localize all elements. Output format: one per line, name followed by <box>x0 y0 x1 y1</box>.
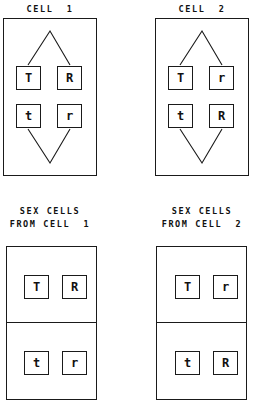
sex-cells-1-upper-right: R <box>62 275 87 299</box>
sex-cells-2-box <box>156 246 247 400</box>
sex-cells-1-title-line-1: SEX CELLS <box>3 206 97 217</box>
cell-2-allele-bottom-right: R <box>209 104 234 128</box>
cell-1-box <box>3 18 97 176</box>
sex-cells-2-title-line-1: SEX CELLS <box>155 206 249 217</box>
sex-cells-1-lower-right: r <box>62 351 87 375</box>
sex-cells-1-divider <box>7 322 96 323</box>
cell-1-allele-top-left: T <box>16 66 41 90</box>
sex-cells-1-box <box>6 246 97 400</box>
sex-cells-2-lower-left: t <box>175 351 200 375</box>
cell-1-allele-top-right: R <box>57 66 82 90</box>
cell-2-box <box>155 18 249 176</box>
cell-2-title: CELL 2 <box>155 4 249 15</box>
cell-2-allele-bottom-left: t <box>168 104 193 128</box>
cell-1-allele-bottom-right: r <box>57 104 82 128</box>
sex-cells-1-lower-left: t <box>24 351 49 375</box>
sex-cells-1-title-line-2: FROM CELL 1 <box>1 219 99 230</box>
sex-cells-2-lower-right: R <box>213 351 238 375</box>
cell-1-allele-bottom-left: t <box>16 104 41 128</box>
sex-cells-2-upper-left: T <box>175 275 200 299</box>
cell-1-title: CELL 1 <box>3 4 97 15</box>
sex-cells-1-upper-left: T <box>24 275 49 299</box>
sex-cells-2-title-line-2: FROM CELL 2 <box>153 219 251 230</box>
sex-cells-2-upper-right: r <box>213 275 238 299</box>
cell-2-allele-top-left: T <box>168 66 193 90</box>
sex-cells-2-divider <box>157 322 246 323</box>
cell-2-allele-top-right: r <box>209 66 234 90</box>
meiosis-diagram: CELL 1 T R t r CELL 2 T r t R SEX CELLS … <box>0 0 256 410</box>
